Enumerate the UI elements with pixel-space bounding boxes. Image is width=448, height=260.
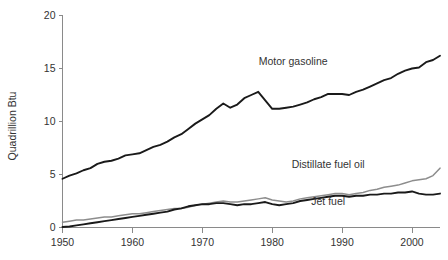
y-tick-label: 15 xyxy=(44,62,56,74)
series-lines xyxy=(63,56,441,227)
x-tick-label: 1960 xyxy=(121,236,145,248)
x-tick-label: 1970 xyxy=(191,236,215,248)
line-chart: 05101520 195019601970198019902000 Motor … xyxy=(0,0,448,260)
y-tick-label: 5 xyxy=(50,168,56,180)
y-tick-label: 10 xyxy=(44,115,56,127)
x-tick-label: 2000 xyxy=(400,236,424,248)
y-tick-label: 20 xyxy=(44,9,56,21)
y-axis: 05101520 xyxy=(44,9,63,233)
y-axis-title-text: Quadrillion Btu xyxy=(6,91,18,160)
x-axis: 195019601970198019902000 xyxy=(51,228,440,248)
series-line xyxy=(63,56,441,179)
x-tick-label: 1950 xyxy=(51,236,75,248)
series-annotations: Motor gasolineDistillate fuel oilJet fue… xyxy=(259,55,365,207)
y-axis-title: Quadrillion Btu xyxy=(6,91,18,160)
series-line xyxy=(63,191,441,227)
series-label: Distillate fuel oil xyxy=(292,158,365,170)
chart-page: 05101520 195019601970198019902000 Motor … xyxy=(0,0,448,260)
x-tick-label: 1990 xyxy=(330,236,354,248)
series-line xyxy=(63,168,441,222)
series-label: Jet fuel xyxy=(311,195,345,207)
series-label: Motor gasoline xyxy=(259,55,328,67)
clipped-footer xyxy=(0,252,448,260)
x-tick-label: 1980 xyxy=(261,236,285,248)
y-tick-label: 0 xyxy=(50,221,56,233)
